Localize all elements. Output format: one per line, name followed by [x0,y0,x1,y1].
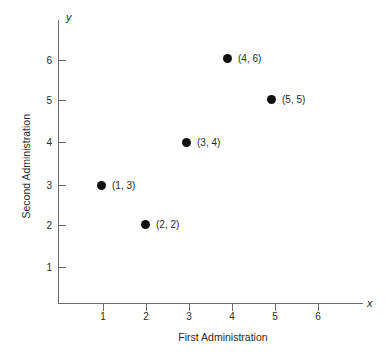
x-axis-variable-symbol: x [367,298,373,309]
data-point-label: (4, 6) [238,54,261,64]
y-axis-variable-symbol: y [66,12,72,23]
data-point [267,95,276,104]
x-tick-label: 1 [96,312,110,322]
x-tick-mark [103,304,104,311]
x-tick-label: 2 [139,312,153,322]
data-point-label: (5, 5) [282,95,305,105]
scatter-plot: y x 6 5 4 3 2 1 1 2 3 4 5 6 (1, 3) (2, 2… [0,0,388,353]
y-tick-mark [59,225,66,226]
y-tick-mark [59,267,66,268]
data-point [223,54,232,63]
x-tick-mark [146,304,147,311]
x-tick-label: 5 [268,312,282,322]
y-tick-mark [59,100,66,101]
y-tick-label: 2 [38,221,52,231]
data-point-label: (3, 4) [197,138,220,148]
x-tick-label: 3 [182,312,196,322]
x-tick-label: 6 [311,312,325,322]
x-tick-mark [189,304,190,311]
data-point [141,220,150,229]
x-tick-mark [318,304,319,311]
x-tick-mark [232,304,233,311]
x-tick-mark [275,304,276,311]
data-point-label: (1, 3) [112,181,135,191]
data-point [182,138,191,147]
x-axis-title: First Administration [58,332,388,343]
y-tick-mark [59,185,66,186]
y-tick-mark [59,142,66,143]
y-axis-title: Second Administration [21,101,32,231]
y-tick-label: 6 [38,56,52,66]
y-tick-label: 1 [38,263,52,273]
data-point-label: (2, 2) [156,220,179,230]
y-tick-label: 4 [38,138,52,148]
data-point [97,181,106,190]
y-axis-line [58,20,59,304]
y-tick-label: 5 [38,96,52,106]
y-tick-label: 3 [38,181,52,191]
y-tick-mark [59,60,66,61]
x-tick-label: 4 [225,312,239,322]
